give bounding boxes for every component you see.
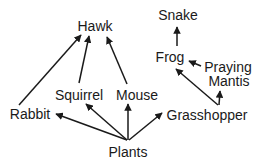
node-squirrel: Squirrel [55, 87, 103, 103]
node-frog: Frog [156, 49, 185, 65]
node-grasshopper: Grasshopper [167, 107, 248, 123]
nodes: Hawk Snake Frog Praying Mantis Rabbit Sq… [10, 7, 252, 160]
node-hawk: Hawk [77, 18, 113, 34]
edge-plants-to-rabbit [56, 114, 127, 140]
node-plants: Plants [109, 144, 148, 160]
edge-mouse-to-hawk [107, 37, 127, 84]
edges [19, 27, 220, 140]
edge-grasshopper-to-mantis [219, 91, 220, 105]
node-snake: Snake [158, 7, 198, 23]
edge-plants-to-squirrel [86, 104, 127, 140]
edge-mantis-to-frog [189, 61, 201, 66]
node-praying-mantis-line2: Mantis [208, 73, 249, 89]
edge-plants-to-grasshopper [129, 113, 162, 140]
node-mouse: Mouse [116, 87, 158, 103]
food-web-diagram: Hawk Snake Frog Praying Mantis Rabbit Sq… [0, 0, 262, 163]
edge-squirrel-to-hawk [79, 36, 89, 83]
node-rabbit: Rabbit [10, 106, 51, 122]
